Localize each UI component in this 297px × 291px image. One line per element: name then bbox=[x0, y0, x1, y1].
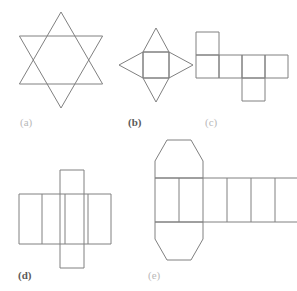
hex-prism-net-row-outline bbox=[155, 178, 297, 222]
geometry-figure-sheet: (a) (b) (c) (d) (e) bbox=[0, 0, 297, 291]
cube-net-cell-5 bbox=[242, 78, 265, 101]
figure-label-e: (e) bbox=[148, 270, 160, 281]
hex-prism-net-hexagon-top bbox=[155, 140, 203, 178]
pyramid-net-triangle-left bbox=[119, 52, 143, 78]
prism-net-vertical-rect bbox=[60, 170, 84, 268]
figures-canvas bbox=[0, 0, 297, 291]
figure-e-hexagonal-prism-net bbox=[155, 140, 297, 260]
cube-net-cell-3 bbox=[242, 55, 265, 78]
figure-a-hexagram bbox=[19, 12, 102, 108]
hexagram-triangle-up bbox=[19, 12, 102, 84]
pyramid-net-base-square bbox=[143, 52, 169, 78]
cube-net-cell-2 bbox=[219, 55, 242, 78]
cube-net-cell-1 bbox=[196, 55, 219, 78]
hex-prism-net-hexagon-bottom bbox=[155, 222, 203, 260]
cube-net-cell-0 bbox=[196, 32, 219, 55]
figure-label-c: (c) bbox=[205, 117, 217, 128]
pyramid-net-triangle-bottom bbox=[143, 78, 169, 102]
pyramid-net-triangle-top bbox=[143, 28, 169, 52]
figure-b-square-pyramid-net bbox=[119, 28, 193, 102]
figure-d-rectangular-prism-net bbox=[19, 170, 111, 268]
cube-net-cell-4 bbox=[265, 55, 288, 78]
figure-label-b: (b) bbox=[128, 117, 141, 128]
figure-c-cube-net bbox=[196, 32, 288, 101]
figure-label-d: (d) bbox=[18, 270, 31, 281]
pyramid-net-triangle-right bbox=[169, 52, 193, 78]
hexagram-triangle-down bbox=[19, 36, 102, 108]
figure-label-a: (a) bbox=[20, 117, 32, 128]
